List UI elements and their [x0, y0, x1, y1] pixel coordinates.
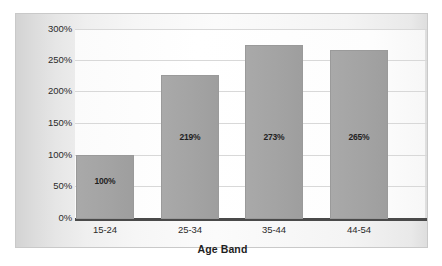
- bar-35-44[interactable]: 273%: [245, 45, 303, 219]
- bar-value-44-54: 265%: [331, 132, 387, 142]
- bar-value-35-44: 273%: [246, 132, 302, 142]
- y-tick-label-50: 50%: [28, 181, 72, 191]
- x-axis-title: Age Band: [16, 243, 429, 255]
- bar-value-25-34: 219%: [162, 132, 218, 142]
- y-tick-label-200: 200%: [28, 86, 72, 96]
- y-tick-label-150: 150%: [28, 118, 72, 128]
- y-axis-labels: 300% 250% 200% 150% 100% 50% 0%: [25, 14, 72, 249]
- y-tick-label-0: 0%: [28, 213, 72, 223]
- x-tick-label-25-34: 25-34: [161, 224, 219, 235]
- x-tick-label-15-24: 15-24: [76, 224, 134, 235]
- y-tick-label-100: 100%: [28, 150, 72, 160]
- bar-15-24[interactable]: 100%: [76, 155, 134, 219]
- bar-chart-figure: 300% 250% 200% 150% 100% 50% 0% 100% 219…: [0, 0, 442, 266]
- x-tick-label-44-54: 44-54: [330, 224, 388, 235]
- chart-panel: 300% 250% 200% 150% 100% 50% 0% 100% 219…: [15, 13, 428, 248]
- bar-44-54[interactable]: 265%: [330, 50, 388, 219]
- y-tick-label-300: 300%: [28, 24, 72, 34]
- x-tick-label-35-44: 35-44: [245, 224, 303, 235]
- bar-value-15-24: 100%: [77, 176, 133, 186]
- bar-25-34[interactable]: 219%: [161, 75, 219, 219]
- gridline-300: [75, 29, 427, 30]
- y-tick-label-250: 250%: [28, 55, 72, 65]
